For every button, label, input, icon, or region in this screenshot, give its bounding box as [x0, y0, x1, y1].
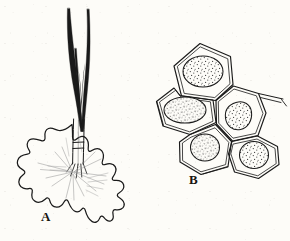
- panel-label-a: A: [41, 210, 51, 223]
- stalk-node-upper: [73, 142, 84, 143]
- cell-bottom-right-nucleus: [240, 142, 269, 169]
- cell-top-nucleus: [183, 56, 223, 87]
- figure-container: A B: [0, 0, 290, 241]
- panel-label-b: B: [189, 173, 198, 186]
- cell-middle-right-nucleus: [225, 102, 251, 130]
- cell-left-nucleus: [164, 97, 206, 123]
- cell-bottom-left-nucleus: [191, 134, 220, 161]
- botanical-illustration: [0, 0, 290, 241]
